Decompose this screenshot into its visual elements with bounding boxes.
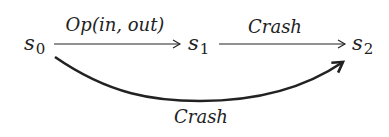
state-s0-subscript: 0	[36, 40, 46, 58]
state-s1-subscript: 1	[200, 40, 210, 58]
edge-s0-s2-label: Crash	[174, 108, 228, 126]
state-s0-base: s	[24, 31, 35, 55]
edge-s0-s2-curved-arrow	[55, 57, 343, 101]
state-s0: s0	[24, 33, 45, 54]
state-s2: s2	[352, 33, 373, 54]
state-s1: s1	[188, 33, 209, 54]
state-s2-base: s	[352, 31, 363, 55]
state-s2-subscript: 2	[364, 40, 374, 58]
edge-s0-s1-label: Op(in, out)	[66, 16, 165, 34]
state-transition-diagram: s0 s1 s2 Op(in, out) Crash Crash	[0, 0, 389, 137]
state-s1-base: s	[188, 31, 199, 55]
edge-s1-s2-label: Crash	[248, 18, 302, 36]
